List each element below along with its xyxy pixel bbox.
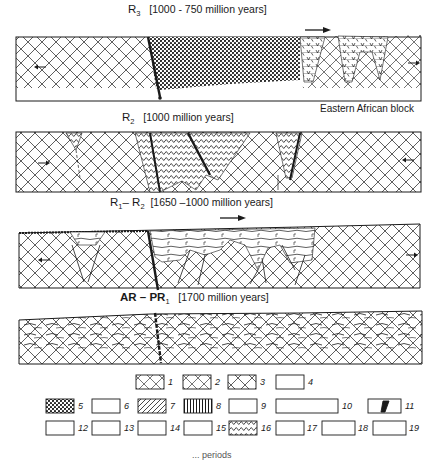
legend-num-12: 12 [78, 423, 88, 433]
legend-num-16: 16 [261, 423, 271, 433]
legend-num-6: 6 [124, 401, 129, 411]
legend-num-2: 2 [215, 377, 220, 387]
panel-ar-pr1 [19, 311, 422, 364]
legend-num-7: 7 [170, 401, 175, 411]
legend-num-11: 11 [405, 401, 414, 411]
legend-num-18: 18 [358, 423, 368, 433]
eastern-african-block-label: Eastern African block [320, 103, 414, 114]
legend-num-15: 15 [216, 423, 226, 433]
legend-num-9: 9 [261, 401, 266, 411]
title-r1-r2: R1– R2 [1650 –1000 million years] [110, 196, 273, 211]
legend-num-14: 14 [170, 423, 180, 433]
legend-num-17: 17 [307, 423, 317, 433]
panel-r3 [16, 27, 421, 101]
legend-num-10: 10 [342, 401, 352, 411]
title-ar-pr1: AR – PR1 [1700 million years] [120, 291, 269, 306]
legend-num-4: 4 [308, 377, 313, 387]
legend-num-19: 19 [409, 423, 419, 433]
legend-num-1: 1 [168, 377, 173, 387]
title-r2: R2 [1000 million years] [122, 111, 234, 126]
legend-num-13: 13 [124, 423, 134, 433]
legend-num-5: 5 [78, 401, 83, 411]
panel-r1-r2 [19, 215, 420, 290]
title-r3: R3 [1000 - 750 million years] [128, 3, 267, 18]
panel-r2 [16, 132, 421, 192]
legend-num-3: 3 [260, 377, 265, 387]
legend-num-8: 8 [216, 401, 221, 411]
partial-caption: ... periods [192, 450, 232, 460]
